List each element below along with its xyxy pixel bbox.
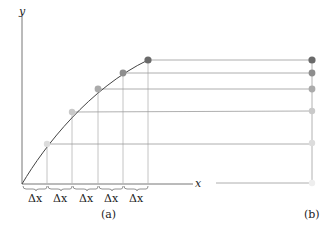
vertical-gridlines — [47, 60, 148, 184]
horizontal-projection-lines — [47, 60, 312, 144]
diagram-canvas: y x — [0, 0, 336, 232]
panel-a-label: (a) — [101, 208, 116, 221]
curve — [22, 60, 148, 184]
point-b-4 — [309, 70, 316, 77]
panel-b-label: (b) — [304, 208, 320, 221]
delta-x-label-1: Δx — [28, 192, 43, 205]
delta-x-label-2: Δx — [53, 192, 68, 205]
panel-a: y x — [18, 5, 312, 221]
point-4 — [120, 70, 127, 77]
point-b-1 — [309, 140, 315, 146]
delta-x-braces — [23, 186, 148, 191]
point-3 — [95, 86, 102, 93]
point-b-5 — [308, 56, 315, 63]
y-axis-label: y — [18, 5, 26, 18]
point-5 — [144, 56, 151, 63]
delta-x-labels: Δx Δx Δx Δx Δx — [28, 192, 144, 205]
panel-b: (b) — [216, 56, 320, 221]
point-2 — [69, 109, 75, 115]
delta-x-label-3: Δx — [79, 192, 94, 205]
point-1 — [44, 141, 50, 147]
x-axis-label: x — [195, 177, 202, 190]
delta-x-label-4: Δx — [104, 192, 119, 205]
point-b-2 — [309, 108, 315, 114]
point-b-0 — [309, 180, 315, 186]
delta-x-label-5: Δx — [129, 192, 144, 205]
point-b-3 — [309, 86, 316, 93]
